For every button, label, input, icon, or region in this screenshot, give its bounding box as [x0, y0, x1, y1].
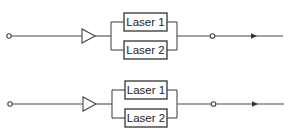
- laser-1-label: Laser 1: [127, 84, 165, 96]
- arrow-right-icon: [251, 33, 257, 38]
- laser-2-label: Laser 2: [126, 44, 164, 56]
- amplifier-icon: [83, 97, 96, 111]
- output-node-icon: [211, 102, 216, 107]
- laser-1-label: Laser 1: [126, 16, 164, 28]
- arrow-right-icon: [252, 101, 258, 106]
- laser-2-label: Laser 2: [127, 112, 165, 124]
- output-node-icon: [210, 34, 215, 39]
- diagram-bottom: Laser 1 Laser 2: [8, 81, 284, 127]
- input-terminal-icon: [7, 34, 11, 38]
- laser-diagram-canvas: Laser 1 Laser 2 Laser 1 Laser 2: [0, 0, 291, 133]
- diagram-top: Laser 1 Laser 2: [7, 13, 283, 59]
- input-terminal-icon: [8, 102, 12, 106]
- amplifier-icon: [82, 29, 95, 43]
